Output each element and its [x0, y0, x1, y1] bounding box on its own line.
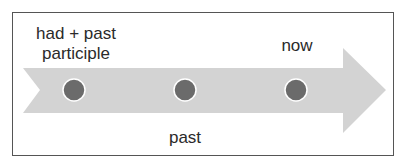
- timeline-dot-past: [174, 79, 196, 101]
- label-past-perfect-line2: participle: [30, 44, 122, 64]
- timeline-dot-past-perfect: [63, 79, 85, 101]
- label-now: now: [272, 36, 322, 56]
- label-past-perfect: had + past participle: [30, 24, 122, 64]
- timeline-dot-now: [285, 79, 307, 101]
- label-past-perfect-line1: had + past: [30, 24, 122, 44]
- label-past: past: [160, 128, 210, 148]
